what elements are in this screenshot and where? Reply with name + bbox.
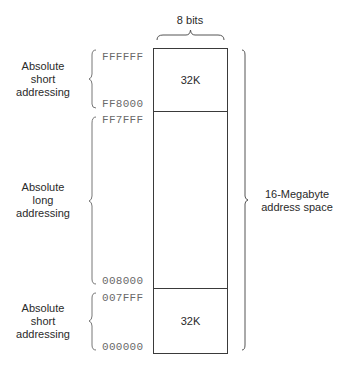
size-label-top: 32K [153, 74, 228, 86]
memory-map-diagram: 8 bits 32K 32K FFFFFF FF8000 FF7FFF 0080… [0, 0, 342, 366]
region-label-top-short: Absolute short addressing [8, 60, 78, 99]
addr-008000: 008000 [102, 275, 143, 287]
addr-ff7fff: FF7FFF [102, 114, 143, 126]
memory-block [153, 48, 228, 354]
size-label-bottom: 32K [153, 315, 228, 327]
right-brace-total-icon [242, 50, 248, 350]
left-brace-top-short-icon [89, 50, 96, 108]
divider-008000 [153, 288, 228, 289]
width-label: 8 bits [160, 14, 220, 27]
address-space-label: 16-Megabyte address space [254, 188, 340, 214]
addr-ffffff: FFFFFF [102, 51, 143, 63]
addr-000000: 000000 [102, 341, 143, 353]
region-label-long: Absolute long addressing [8, 181, 78, 220]
width-brace-icon [157, 30, 224, 40]
addr-007fff: 007FFF [102, 292, 143, 304]
left-brace-long-icon [89, 117, 96, 284]
divider-ff8000 [153, 111, 228, 112]
region-label-bottom-short: Absolute short addressing [8, 302, 78, 341]
addr-ff8000: FF8000 [102, 98, 143, 110]
left-brace-bottom-short-icon [89, 293, 96, 350]
